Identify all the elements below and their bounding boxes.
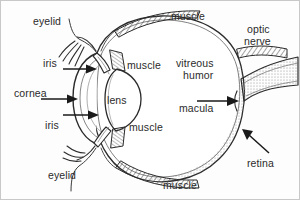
- label-retina: retina: [247, 158, 274, 170]
- eye-anatomy-diagram: eyelid muscle optic nerve iris muscle vi…: [0, 0, 300, 200]
- label-iris-bottom: iris: [45, 120, 59, 132]
- eyelash-group-lower: [63, 146, 85, 161]
- label-optic-nerve-line2: nerve: [244, 36, 271, 48]
- label-muscle-upper: muscle: [127, 60, 161, 72]
- arrow-retina: [242, 129, 269, 153]
- label-muscle-bottom: muscle: [163, 180, 197, 192]
- label-iris-top: iris: [43, 58, 57, 70]
- label-muscle-lower: muscle: [129, 122, 163, 134]
- label-eyelid-bottom: eyelid: [48, 170, 76, 182]
- label-cornea: cornea: [14, 88, 47, 100]
- label-lens: lens: [107, 95, 127, 107]
- label-eyelid-top: eyelid: [33, 16, 61, 28]
- label-vitreous-humor-line2: humor: [183, 70, 213, 82]
- ciliary-muscle-lower: [111, 127, 125, 148]
- muscle-band-posterior-upper: [237, 46, 287, 58]
- label-macula: macula: [179, 103, 213, 115]
- label-muscle-top: muscle: [171, 11, 205, 23]
- eyelash-group-upper: [59, 41, 84, 66]
- label-vitreous-humor-line1: vitreous: [176, 58, 214, 70]
- label-optic-nerve-line1: optic: [247, 24, 270, 36]
